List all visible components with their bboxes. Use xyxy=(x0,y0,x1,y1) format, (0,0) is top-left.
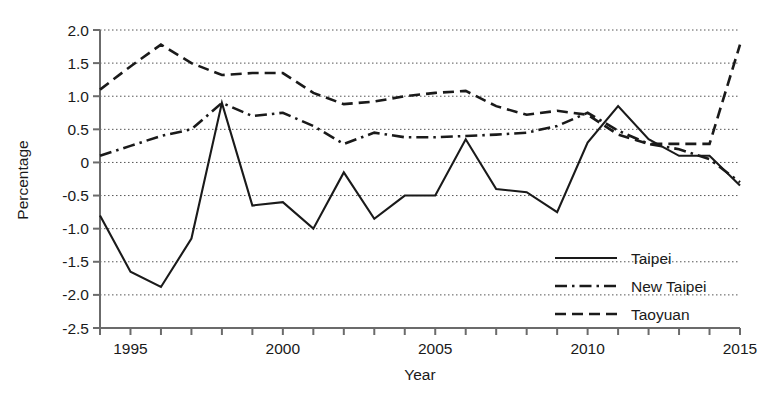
line-chart: 2.01.51.00.50-0.5-1.0-1.5-2.0-2.5 199520… xyxy=(0,0,783,408)
y-tick-label-3: 0.5 xyxy=(67,121,89,138)
x-axis-title: Year xyxy=(404,366,435,383)
y-tick-label-5: -0.5 xyxy=(62,187,89,204)
y-axis-title: Percentage xyxy=(14,140,31,219)
chart-figure: 2.01.51.00.50-0.5-1.0-1.5-2.0-2.5 199520… xyxy=(0,0,783,408)
x-tick-label-2005: 2005 xyxy=(418,340,452,357)
x-tick-label-2010: 2010 xyxy=(570,340,605,357)
x-tick-label-2000: 2000 xyxy=(266,340,301,357)
legend-label-taoyuan: Taoyuan xyxy=(631,306,690,323)
legend-label-new-taipei: New Taipei xyxy=(631,278,707,295)
x-tick-label-2015: 2015 xyxy=(723,340,757,357)
y-tick-label-8: -2.0 xyxy=(62,286,89,303)
y-tick-label-4: 0 xyxy=(80,154,89,171)
x-tick-label-1995: 1995 xyxy=(113,340,147,357)
y-tick-label-6: -1.0 xyxy=(62,220,89,237)
y-tick-label-9: -2.5 xyxy=(62,320,89,337)
legend-label-taipei: Taipei xyxy=(631,250,672,267)
y-tick-label-1: 1.5 xyxy=(67,55,89,72)
y-tick-label-0: 2.0 xyxy=(67,22,89,39)
y-tick-label-2: 1.0 xyxy=(67,88,89,105)
y-tick-label-7: -1.5 xyxy=(62,253,89,270)
